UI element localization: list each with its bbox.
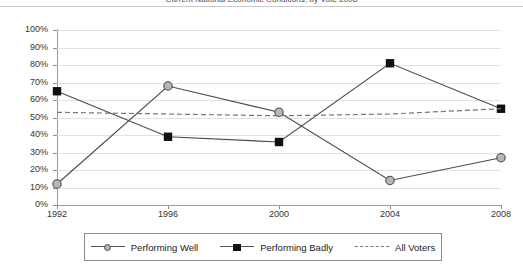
dashed-line-icon	[355, 241, 389, 253]
data-point-circle	[164, 82, 172, 90]
x-axis-tick-label: 2000	[249, 209, 309, 220]
data-point-circle	[53, 180, 61, 188]
series-layer	[57, 30, 501, 205]
chart-legend: Performing Well Performing Badly All Vot…	[84, 233, 442, 261]
data-point-square	[275, 138, 283, 146]
data-point-square	[164, 133, 172, 141]
data-point-square	[53, 87, 61, 95]
x-axis-tick	[501, 205, 502, 209]
legend-label-all-voters: All Voters	[395, 242, 435, 253]
y-axis-tick-label: 30%	[4, 148, 48, 157]
x-axis-tick-label: 2004	[360, 209, 420, 220]
legend-item-performing-badly[interactable]: Performing Badly	[220, 241, 333, 253]
data-point-square	[386, 59, 394, 67]
gridline	[57, 205, 501, 206]
y-axis-tick-label: 100%	[4, 25, 48, 34]
y-axis-tick-label: 20%	[4, 165, 48, 174]
data-point-circle	[386, 176, 394, 184]
square-marker-icon	[220, 241, 254, 253]
plot-area	[57, 30, 501, 205]
y-axis-tick-label: 60%	[4, 95, 48, 104]
x-axis-tick-label: 1992	[27, 209, 87, 220]
y-axis-tick-label: 70%	[4, 78, 48, 87]
series-line	[57, 86, 501, 184]
y-axis-tick-label: 90%	[4, 43, 48, 52]
y-axis-tick-label: 50%	[4, 113, 48, 122]
series-line	[57, 63, 501, 142]
x-axis-tick-label: 2008	[471, 209, 523, 220]
y-axis-tick-label: 10%	[4, 183, 48, 192]
legend-label-performing-badly: Performing Badly	[260, 242, 333, 253]
legend-item-all-voters[interactable]: All Voters	[355, 241, 435, 253]
title-divider	[0, 6, 523, 7]
y-axis-tick-label: 80%	[4, 60, 48, 69]
circle-marker-icon	[91, 241, 125, 253]
y-axis-tick-label: 40%	[4, 130, 48, 139]
legend-label-performing-well: Performing Well	[131, 242, 198, 253]
legend-item-performing-well[interactable]: Performing Well	[91, 241, 198, 253]
chart-container: Current National Economic Conditions, by…	[0, 0, 523, 269]
y-axis-tick-label: 0%	[4, 200, 48, 209]
data-point-circle	[497, 154, 505, 162]
x-axis-tick-label: 1996	[138, 209, 198, 220]
